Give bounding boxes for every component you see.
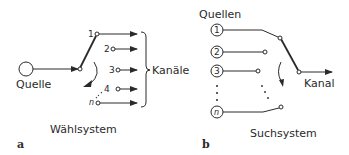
source-label-2: 2 — [214, 47, 220, 57]
source-label-1: 1 — [214, 25, 220, 35]
source-line-1 — [223, 30, 278, 37]
channels-label: Kanäle — [152, 64, 190, 77]
contact-3 — [116, 68, 120, 72]
panel-letter-a: a — [17, 138, 24, 151]
source-line-n — [223, 108, 279, 112]
contact-2 — [263, 50, 267, 54]
contact-label-3: 3 — [109, 65, 115, 75]
selector-arm — [80, 36, 96, 68]
system-label-a: Wählsystem — [50, 123, 117, 136]
source-label: Quelle — [16, 78, 52, 91]
source-circle — [19, 62, 33, 76]
rotation-arrowhead-icon — [279, 79, 284, 87]
panel-a: 1 2 3 4 n Kanäle Quelle Wählsystem a — [16, 29, 190, 151]
contact-n — [96, 101, 100, 105]
source-label-n: n — [214, 108, 219, 117]
contact-4 — [116, 87, 120, 91]
ellipsis-dots — [96, 91, 103, 98]
pivot-contact — [78, 67, 82, 71]
system-label-b: Suchsystem — [250, 127, 317, 140]
rotation-arc — [90, 62, 97, 84]
diagonal-ellipsis — [261, 85, 269, 99]
contact-2 — [111, 47, 115, 51]
selector-arm — [281, 39, 298, 70]
panel-letter-b: b — [202, 138, 210, 151]
panel-b: Quellen 1 2 3 n — [199, 8, 335, 151]
rotation-arrowhead-icon — [83, 80, 92, 87]
sources-label: Quellen — [199, 8, 241, 21]
contact-label-n: n — [89, 98, 94, 107]
contact-label-2: 2 — [104, 44, 110, 54]
pivot-contact — [297, 70, 301, 74]
channel-label: Kanal — [304, 77, 335, 90]
rotation-arc — [279, 62, 282, 81]
switching-diagram: 1 2 3 4 n Kanäle Quelle Wählsystem a Que… — [0, 0, 349, 155]
vertical-ellipsis — [216, 85, 218, 101]
contact-1 — [95, 32, 99, 36]
contact-label-4: 4 — [104, 84, 110, 94]
contact-1 — [278, 36, 282, 40]
contact-3 — [256, 69, 260, 73]
source-label-3: 3 — [214, 66, 220, 76]
contact-label-1: 1 — [88, 29, 94, 39]
channels-brace — [141, 32, 150, 107]
contact-n — [279, 105, 283, 109]
